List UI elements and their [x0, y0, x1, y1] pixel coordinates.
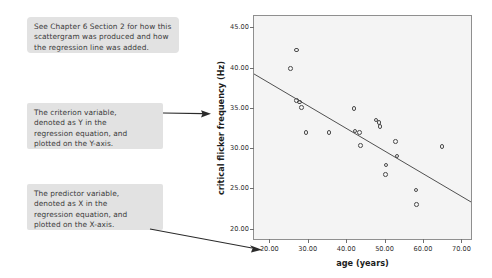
scatter-point	[304, 130, 309, 135]
scatterplot-chart: critical flicker frequency (Hz) 20.0025.…	[200, 0, 492, 278]
scatter-point	[414, 202, 419, 207]
x-axis-tick-label: 40.00	[337, 245, 356, 253]
x-axis-tick-label: 20.00	[260, 245, 279, 253]
y-axis-tick	[250, 68, 254, 69]
y-axis-tick	[250, 188, 254, 189]
y-axis-label-text: critical flicker frequency (Hz)	[216, 60, 226, 194]
scatter-point	[393, 139, 398, 144]
callout-predictor-note: The predictor variable, denoted as X in …	[27, 184, 163, 230]
scatter-point	[352, 106, 357, 111]
y-axis-tick-label: 35.00	[230, 104, 249, 112]
scatter-point	[378, 124, 383, 129]
figure-stage: See Chapter 6 Section 2 for how this sca…	[0, 0, 492, 278]
callout-criterion-line-2: denoted as Y in the	[34, 118, 156, 128]
callout-criterion-line-1: The criterion variable,	[34, 108, 156, 118]
plot-area: 20.0025.0030.0035.0040.0045.0020.0030.00…	[254, 16, 471, 239]
scatter-point	[297, 100, 302, 105]
y-axis-tick-label: 25.00	[230, 184, 249, 192]
y-axis-tick	[250, 229, 254, 230]
callout-criterion-note: The criterion variable, denoted as Y in …	[27, 103, 163, 149]
regression-line	[254, 16, 471, 239]
y-axis-tick	[250, 27, 254, 28]
callout-criterion-line-4: plotted on the Y-axis.	[34, 139, 156, 149]
callout-chapter-line-1: See Chapter 6 Section 2 for how this	[34, 22, 172, 32]
y-axis-tick-label: 30.00	[230, 144, 249, 152]
x-axis-tick-label: 60.00	[414, 245, 433, 253]
y-axis-tick	[250, 148, 254, 149]
callout-predictor-line-4: plotted on the X-axis.	[34, 220, 156, 230]
callout-predictor-line-3: regression equation, and	[34, 210, 156, 220]
x-axis-tick	[346, 239, 347, 243]
callout-predictor-line-2: denoted as X in the	[34, 199, 156, 209]
x-axis-tick	[269, 239, 270, 243]
x-axis-tick	[385, 239, 386, 243]
y-axis-tick-label: 45.00	[230, 23, 249, 31]
scatter-point	[357, 130, 362, 135]
x-axis-tick	[423, 239, 424, 243]
y-axis-tick-label: 20.00	[230, 225, 249, 233]
callout-chapter-note: See Chapter 6 Section 2 for how this sca…	[27, 17, 179, 53]
x-axis-tick-label: 70.00	[452, 245, 471, 253]
callout-criterion-line-3: regression equation, and	[34, 129, 156, 139]
x-axis-label-text: age (years)	[336, 258, 389, 268]
x-axis-tick	[461, 239, 462, 243]
scatter-point	[294, 48, 299, 53]
callout-chapter-line-2: scattergram was produced and how	[34, 32, 172, 42]
x-axis-tick-label: 30.00	[298, 245, 317, 253]
scatter-point	[358, 143, 363, 148]
x-axis-tick-label: 50.00	[375, 245, 394, 253]
x-axis-tick	[308, 239, 309, 243]
plot-frame: 20.0025.0030.0035.0040.0045.0020.0030.00…	[253, 15, 472, 240]
y-axis-tick-label: 40.00	[230, 64, 249, 72]
x-axis-label: age (years)	[253, 258, 472, 268]
scatter-point	[383, 172, 388, 177]
scatter-point	[299, 105, 304, 110]
callout-predictor-line-1: The predictor variable,	[34, 189, 156, 199]
scatter-point	[327, 130, 332, 135]
scatter-point	[288, 66, 293, 71]
y-axis-label: critical flicker frequency (Hz)	[214, 15, 228, 240]
callout-chapter-line-3: the regression line was added.	[34, 43, 172, 53]
y-axis-tick	[250, 108, 254, 109]
regression-line-stroke	[254, 74, 471, 202]
